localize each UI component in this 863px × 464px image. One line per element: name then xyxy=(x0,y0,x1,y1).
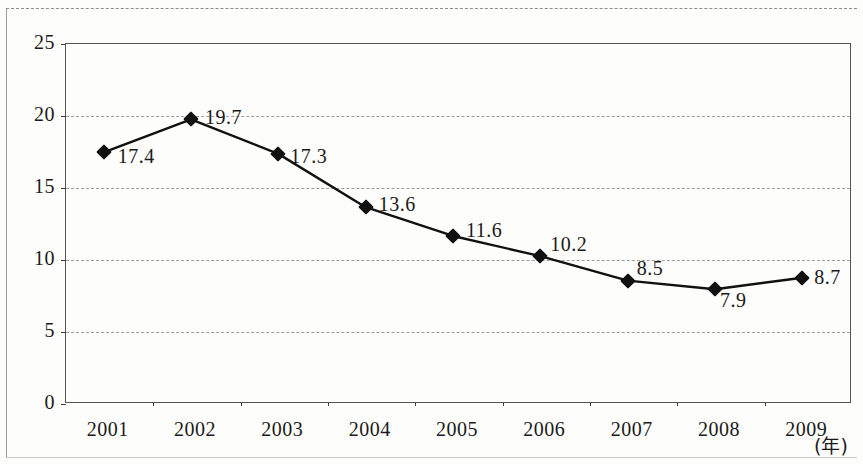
x-tick-mark xyxy=(415,402,416,406)
y-tick-mark xyxy=(61,332,66,333)
x-tick-mark xyxy=(677,402,678,406)
y-tick-mark xyxy=(61,44,66,45)
x-tick-mark xyxy=(153,402,154,406)
data-point-value-label: 17.3 xyxy=(290,146,327,166)
x-axis-tick-label: 2001 xyxy=(87,418,129,440)
x-tick-mark xyxy=(328,402,329,406)
x-axis-tick-label: 2004 xyxy=(349,418,391,440)
data-point-value-label: 8.5 xyxy=(637,258,664,278)
data-point-value-label: 11.6 xyxy=(466,220,502,240)
data-point-value-label: 17.4 xyxy=(118,146,155,166)
data-point-value-label: 13.6 xyxy=(379,194,416,214)
y-tick-mark xyxy=(61,260,66,261)
x-axis-tick-label: 2006 xyxy=(523,418,565,440)
line-chart-figure: 2520151050 17.419.717.313.611.610.28.57.… xyxy=(0,0,863,464)
data-point-value-label: 7.9 xyxy=(720,290,747,310)
x-tick-mark xyxy=(765,402,766,406)
plot-area xyxy=(65,43,851,403)
x-axis-tick-label: 2007 xyxy=(611,418,653,440)
y-tick-mark xyxy=(61,116,66,117)
y-axis-labels: 2520151050 xyxy=(0,0,55,464)
x-axis-tick-label: 2008 xyxy=(698,418,740,440)
x-tick-mark xyxy=(503,402,504,406)
data-point-value-label: 10.2 xyxy=(550,234,587,254)
y-tick-mark xyxy=(61,404,66,405)
data-point-value-label: 19.7 xyxy=(205,107,242,127)
y-axis-tick-label: 15 xyxy=(34,176,55,196)
gridline xyxy=(66,260,850,261)
x-axis-tick-label: 2003 xyxy=(261,418,303,440)
data-point-value-label: 8.7 xyxy=(814,267,841,287)
x-tick-mark xyxy=(590,402,591,406)
gridline xyxy=(66,332,850,333)
x-axis-unit-label: (年) xyxy=(814,436,848,456)
x-axis-tick-label: 2005 xyxy=(436,418,478,440)
y-axis-tick-label: 20 xyxy=(34,104,55,124)
y-axis-tick-label: 0 xyxy=(45,392,56,412)
x-axis-tick-label: 2002 xyxy=(174,418,216,440)
y-axis-tick-label: 5 xyxy=(45,320,56,340)
gridline xyxy=(66,188,850,189)
y-axis-tick-label: 25 xyxy=(34,32,55,52)
y-tick-mark xyxy=(61,188,66,189)
x-tick-mark xyxy=(241,402,242,406)
y-axis-tick-label: 10 xyxy=(34,248,55,268)
